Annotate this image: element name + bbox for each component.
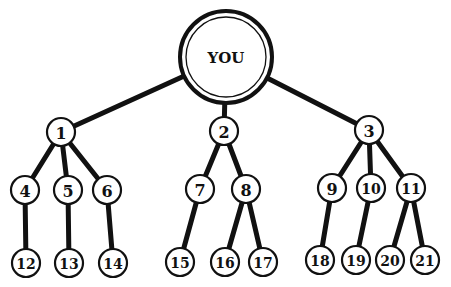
node-label: 4 [19, 182, 30, 201]
node-17: 17 [249, 248, 277, 276]
node-label: 3 [363, 122, 374, 141]
node-16: 16 [211, 248, 239, 276]
node-label: 20 [380, 253, 400, 269]
node-19: 19 [342, 246, 370, 274]
node-20: 20 [376, 246, 404, 274]
node-label: 9 [326, 180, 337, 199]
node-7: 7 [186, 175, 214, 203]
node-label: 1 [55, 124, 66, 143]
referral-tree-diagram: 123456789101112131415161718192021 YOU [0, 0, 451, 287]
node-1: 1 [47, 118, 75, 146]
node-label: 16 [215, 255, 234, 271]
node-label: 18 [310, 253, 329, 269]
node-label: 12 [16, 256, 35, 272]
node-label: 7 [194, 181, 205, 200]
node-5: 5 [54, 176, 82, 204]
node-label: 2 [218, 123, 229, 142]
node-3: 3 [355, 116, 383, 144]
node-2: 2 [210, 117, 238, 145]
node-label: 15 [170, 255, 189, 271]
node-label: 6 [101, 182, 112, 201]
root-label: YOU [207, 49, 245, 67]
node-8: 8 [232, 175, 260, 203]
node-15: 15 [166, 248, 194, 276]
node-13: 13 [55, 249, 83, 277]
tree-nodes: 123456789101112131415161718192021 [11, 116, 439, 277]
node-6: 6 [93, 176, 121, 204]
node-4: 4 [11, 176, 39, 204]
node-21: 21 [411, 246, 439, 274]
node-11: 11 [397, 174, 425, 202]
node-10: 10 [357, 174, 385, 202]
node-label: 13 [59, 256, 78, 272]
node-label: 14 [103, 256, 123, 272]
node-label: 8 [240, 181, 251, 200]
node-14: 14 [99, 249, 127, 277]
node-label: 10 [361, 181, 381, 197]
node-18: 18 [306, 246, 334, 274]
node-label: 11 [401, 181, 420, 197]
node-label: 19 [346, 253, 365, 269]
root-node-you: YOU [180, 11, 272, 103]
node-label: 5 [62, 182, 73, 201]
node-label: 17 [253, 255, 272, 271]
node-12: 12 [12, 249, 40, 277]
node-9: 9 [318, 174, 346, 202]
node-label: 21 [415, 253, 434, 269]
